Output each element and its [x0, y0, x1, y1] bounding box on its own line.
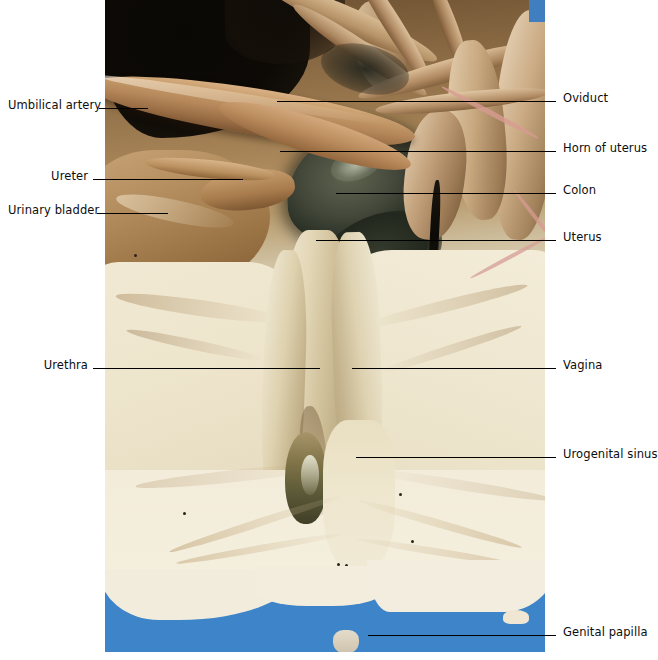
- leader-urethra: [93, 368, 320, 369]
- genital-papilla-tip: [333, 630, 359, 652]
- leader-umbilical-artery: [99, 108, 148, 109]
- label-umbilical-artery: Umbilical artery: [8, 99, 94, 112]
- tissue-edge-right: [367, 560, 545, 612]
- urogenital-sinus-mass: [323, 420, 395, 570]
- leader-vagina: [352, 368, 556, 369]
- label-urogenital-sinus: Urogenital sinus: [563, 448, 658, 461]
- label-uterus: Uterus: [563, 231, 602, 244]
- leader-genital-papilla: [368, 635, 556, 636]
- leader-ureter: [93, 179, 243, 180]
- tissue-speck: [134, 254, 137, 257]
- label-urethra: Urethra: [8, 359, 88, 372]
- leader-oviduct: [277, 101, 556, 102]
- specimen-photograph: [105, 0, 545, 652]
- label-vagina: Vagina: [563, 359, 602, 372]
- label-urinary-bladder: Urinary bladder: [8, 204, 94, 217]
- leader-urogenital-sinus: [356, 457, 556, 458]
- leader-colon: [336, 193, 556, 194]
- leader-horn-of-uterus: [280, 151, 556, 152]
- tissue-speck: [183, 512, 186, 515]
- blue-background-corner: [529, 0, 545, 22]
- label-colon: Colon: [563, 184, 596, 197]
- label-ureter: Ureter: [8, 170, 88, 183]
- leader-uterus: [316, 240, 556, 241]
- tissue-edge-mid: [255, 566, 385, 606]
- label-horn-of-uterus: Horn of uterus: [563, 142, 647, 155]
- urogenital-lumen-gloss: [301, 455, 319, 495]
- leader-urinary-bladder: [97, 213, 168, 214]
- label-oviduct: Oviduct: [563, 92, 608, 105]
- tissue-speck: [411, 540, 414, 543]
- label-genital-papilla: Genital papilla: [563, 626, 648, 639]
- tissue-speck: [399, 493, 402, 496]
- tissue-nub: [503, 610, 529, 624]
